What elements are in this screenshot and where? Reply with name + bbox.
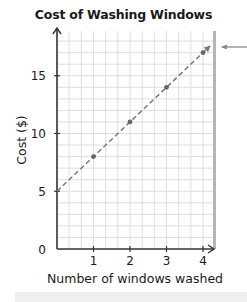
data-point <box>128 120 133 125</box>
x-tick-label: 3 <box>163 254 171 268</box>
data-point <box>201 50 206 55</box>
x-tick-label: 2 <box>126 254 134 268</box>
pointer-arrow-icon <box>221 45 247 50</box>
y-tick-label: 10 <box>31 127 46 141</box>
x-axis-label: Number of windows washed <box>47 271 223 286</box>
y-tick-label: 15 <box>31 69 46 83</box>
x-tick-label: 1 <box>90 254 98 268</box>
footer-bar <box>15 292 247 302</box>
data-point <box>91 154 96 159</box>
y-axis-label: Cost ($) <box>14 115 29 164</box>
data-point <box>164 85 169 90</box>
y-tick-label: 5 <box>38 185 46 199</box>
grid <box>57 31 213 249</box>
x-tick-label: 4 <box>199 254 207 268</box>
right-edge-bar <box>213 31 216 249</box>
y-tick-label: 0 <box>38 243 46 257</box>
chart-canvas: 1234051015 Number of windows washed Cost… <box>0 0 247 302</box>
